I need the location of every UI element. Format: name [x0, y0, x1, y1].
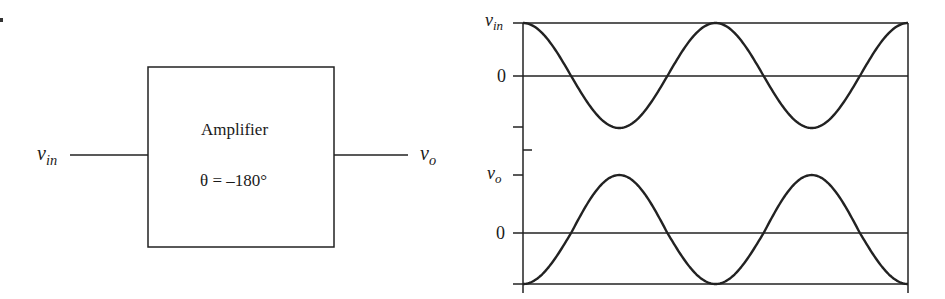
output-subscript: o [429, 152, 436, 168]
graph-vo-zero-label: 0 [496, 224, 505, 242]
output-signal-label: vo [420, 143, 436, 163]
input-subscript: in [46, 152, 57, 168]
graph-vin-zero-label: 0 [497, 67, 506, 85]
vo-waveform [523, 175, 908, 284]
amplifier-block [148, 67, 334, 247]
input-signal-label: vin [37, 143, 57, 163]
output-symbol: v [420, 142, 429, 164]
graph-vo-symbol: v [487, 163, 495, 183]
waveform-graph [513, 23, 908, 293]
graph-vin-subscript: in [493, 18, 503, 33]
amplifier-title: Amplifier [201, 121, 268, 138]
phase-shift-label: θ = –180° [200, 172, 267, 189]
graph-vo-label: vo [487, 164, 501, 182]
input-symbol: v [37, 142, 46, 164]
amplifier-phase-figure: Amplifier θ = –180° vin vo vin 0 vo 0 [0, 0, 945, 299]
graph-vin-label: vin [485, 11, 503, 29]
graph-vin-symbol: v [485, 10, 493, 30]
graph-vo-subscript: o [495, 171, 501, 186]
figure-drawing [0, 0, 945, 299]
